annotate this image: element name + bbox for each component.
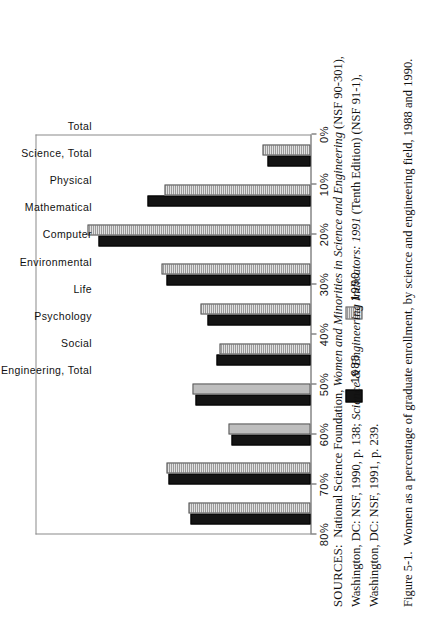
bar-1990 — [189, 503, 311, 514]
bar-1988 — [191, 514, 311, 525]
axis-tick — [312, 334, 317, 335]
figure-chart-rotated: 0%10%20%30%40%50%60%70%80% 1988 1990 — [28, 78, 328, 553]
bar-group — [37, 264, 311, 286]
sources-label: SOURCES: — [331, 544, 345, 607]
bar-group — [37, 224, 311, 246]
bar-group — [37, 463, 311, 485]
bar-1988 — [167, 275, 311, 286]
bar-group — [37, 343, 311, 365]
axis-tick-label: 20% — [318, 223, 330, 247]
bar-group — [37, 383, 311, 405]
bar-chart: 0%10%20%30%40%50%60%70%80% 1988 1990 — [28, 78, 328, 553]
bar-1988 — [148, 195, 311, 206]
bar-group — [37, 184, 311, 206]
axis-tick — [312, 484, 317, 485]
sources-line2-b: (Tenth Edition) (NSF 91-1), — [349, 74, 363, 217]
axis-tick-label: 80% — [318, 523, 330, 547]
bar-1990 — [220, 343, 311, 354]
bar-1990 — [162, 264, 311, 275]
bar-1990 — [165, 184, 311, 195]
sources-line2-a: Washington, DC: NSF, 1990, p. 138; — [349, 420, 363, 607]
axis-tick-label: 0% — [318, 126, 330, 143]
bar-1988 — [232, 434, 311, 445]
bar-1990 — [201, 304, 311, 315]
axis-tick — [312, 534, 317, 535]
axis-tick — [312, 284, 317, 285]
axis-tick — [312, 134, 317, 135]
bar-1990 — [263, 144, 311, 155]
axis-tick-label: 60% — [318, 423, 330, 447]
bar-group — [37, 144, 311, 166]
axis-tick-label: 40% — [318, 323, 330, 347]
sources-line-2: Washington, DC: NSF, 1990, p. 138; Scien… — [348, 17, 366, 607]
sources-line1-b: (NSF 90-301), — [331, 56, 345, 132]
bar-group — [37, 304, 311, 326]
bar-1990 — [167, 463, 311, 474]
axis-tick — [312, 434, 317, 435]
sources-line-1: SOURCES: National Science Foundation, Wo… — [330, 17, 348, 607]
axis-tick-label: 70% — [318, 473, 330, 497]
value-axis: 0%10%20%30%40%50%60%70%80% — [312, 135, 328, 535]
figure-caption-text: Women as a percentage of graduate enroll… — [401, 59, 415, 546]
sources-line1-a: National Science Foundation, — [331, 386, 345, 537]
axis-tick — [312, 234, 317, 235]
bar-1988 — [98, 235, 310, 246]
bar-1990 — [192, 383, 310, 394]
axis-tick-label: 10% — [318, 173, 330, 197]
sources-line1-italic: Women and Minorities in Science and Engi… — [331, 132, 345, 386]
sources-line3: Washington, DC: NSF, 1991, p. 239. — [367, 424, 381, 607]
bar-1990 — [88, 224, 311, 235]
bar-1990 — [228, 423, 310, 434]
axis-tick — [312, 184, 317, 185]
bar-group — [37, 423, 311, 445]
sources-line-3: Washington, DC: NSF, 1991, p. 239. — [366, 17, 384, 607]
bar-1988 — [216, 354, 310, 365]
bar-1988 — [268, 155, 311, 166]
axis-tick-label: 50% — [318, 373, 330, 397]
sources-block: SOURCES: National Science Foundation, Wo… — [330, 17, 383, 607]
bar-1988 — [168, 474, 310, 485]
sources-line2-italic: Science & Engineering Indicators: 1991 — [349, 217, 363, 420]
bar-group — [37, 503, 311, 525]
bar-1988 — [208, 315, 311, 326]
figure-number: Figure 5-1. — [401, 551, 415, 607]
figure-caption: Figure 5-1. Women as a percentage of gra… — [400, 17, 418, 607]
axis-tick-label: 30% — [318, 273, 330, 297]
axis-tick — [312, 384, 317, 385]
bars-area — [37, 136, 311, 534]
bar-1988 — [196, 394, 311, 405]
